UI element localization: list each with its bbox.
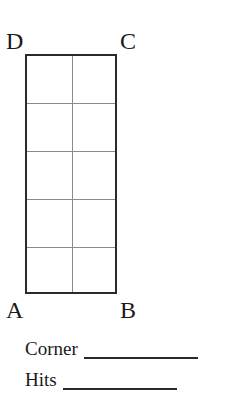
grid-horizontal-line: [27, 199, 115, 200]
grid-horizontal-line: [27, 151, 115, 152]
label-c: C: [120, 29, 136, 53]
corner-label: Corner: [25, 339, 78, 359]
label-a: A: [6, 298, 23, 322]
label-d: D: [6, 29, 23, 53]
label-b: B: [120, 298, 136, 322]
hits-label: Hits: [25, 370, 57, 390]
grid-vertical-line: [72, 56, 73, 292]
corner-field: Corner: [25, 339, 198, 359]
grid-horizontal-line: [27, 103, 115, 104]
hits-field: Hits: [25, 370, 177, 390]
grid-horizontal-line: [27, 247, 115, 248]
corner-blank[interactable]: [84, 343, 198, 359]
grid-rectangle: [25, 54, 117, 294]
hits-blank[interactable]: [63, 374, 177, 390]
